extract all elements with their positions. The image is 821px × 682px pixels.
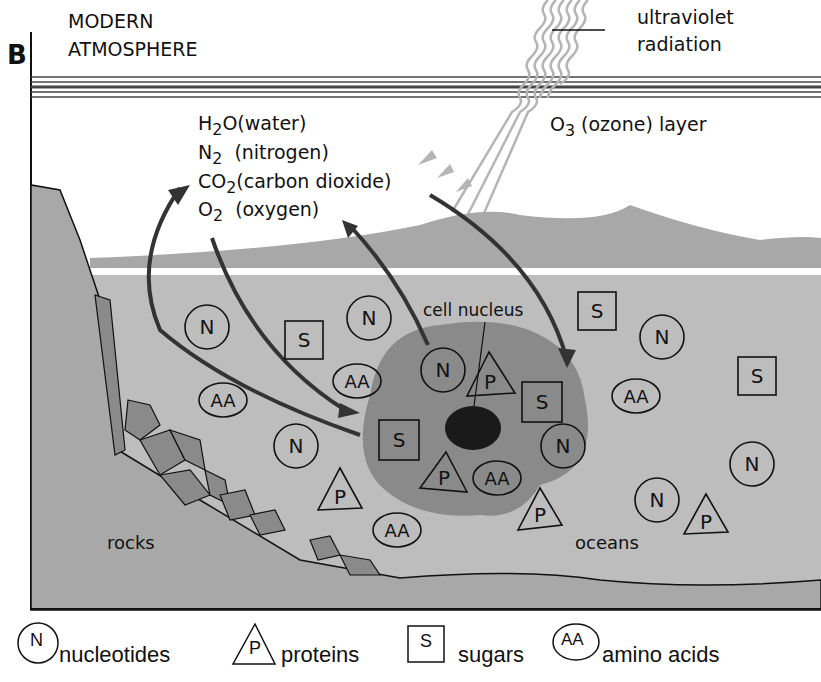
svg-text:AA: AA [484, 468, 510, 489]
svg-text:S: S [298, 328, 311, 352]
uv-arrowheads [418, 150, 472, 192]
legend-label-sugars: sugars [458, 642, 524, 668]
legend-label-proteins: proteins [281, 642, 359, 668]
svg-text:P: P [334, 485, 346, 509]
uv-line1: ultraviolet [637, 4, 734, 31]
cell-nucleus-label: cell nucleus [423, 300, 523, 320]
legend: N nucleotides P proteins S sugars AA ami… [0, 618, 821, 678]
atmosphere-line1: MODERN [68, 7, 198, 35]
svg-text:S: S [536, 390, 549, 414]
svg-text:N: N [556, 434, 571, 458]
svg-text:S: S [591, 299, 604, 323]
svg-text:N: N [362, 306, 377, 330]
svg-text:S: S [393, 428, 406, 452]
gas-list: H2O(water) N2 (nitrogen) CO2(carbon diox… [198, 112, 391, 227]
oceans-label: oceans [575, 532, 639, 553]
svg-text:P: P [438, 466, 450, 490]
ozone-layer [31, 77, 821, 97]
svg-text:P: P [700, 510, 712, 534]
ozone-text: (ozone) layer [575, 113, 707, 135]
svg-text:N: N [650, 488, 665, 512]
diagram-canvas: NNN NNN NN SSS SS AAAA AAAA AA PPP PP [0, 0, 821, 682]
svg-text:AA: AA [623, 386, 649, 407]
svg-text:P: P [534, 503, 546, 527]
svg-text:N: N [655, 325, 670, 349]
svg-text:N: N [289, 434, 304, 458]
gas-water: H2O(water) [198, 112, 391, 141]
ozone-label: O3 (ozone) layer [550, 113, 707, 140]
legend-symbol-s: S [420, 631, 432, 652]
gas-nitrogen: N2 (nitrogen) [198, 141, 391, 170]
ozone-formula: O [550, 113, 565, 135]
svg-text:P: P [484, 370, 496, 394]
gas-co2: CO2(carbon dioxide) [198, 170, 391, 199]
legend-symbol-aa: AA [561, 630, 584, 650]
nucleus [445, 406, 501, 450]
legend-symbol-p: P [249, 638, 261, 659]
legend-label-nucleotides: nucleotides [59, 642, 170, 668]
frame-bottom [31, 608, 821, 610]
svg-text:N: N [200, 315, 215, 339]
legend-symbol-n: N [30, 630, 43, 651]
atmosphere-line2: ATMOSPHERE [68, 35, 198, 63]
uv-line2: radiation [637, 31, 734, 58]
gas-oxygen: O2 (oxygen) [198, 198, 391, 227]
svg-text:AA: AA [384, 520, 410, 541]
uv-label: ultraviolet radiation [637, 4, 734, 58]
legend-label-amino-acids: amino acids [602, 642, 719, 668]
svg-text:N: N [436, 358, 451, 382]
svg-text:AA: AA [344, 371, 370, 392]
svg-text:N: N [745, 452, 760, 476]
atmosphere-label: MODERN ATMOSPHERE [68, 7, 198, 63]
svg-text:S: S [751, 364, 764, 388]
panel-letter: B [7, 40, 27, 70]
ozone-sub: 3 [565, 121, 575, 140]
rocks-label: rocks [107, 532, 155, 553]
svg-text:AA: AA [210, 390, 236, 411]
